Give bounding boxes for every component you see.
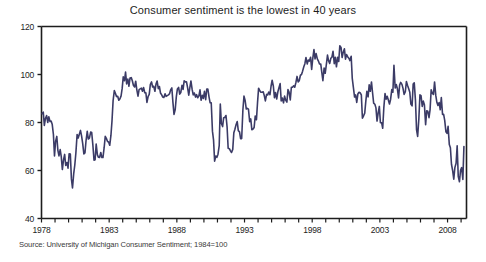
x-tick-label: 2008 xyxy=(428,225,468,235)
chart-plot-area xyxy=(0,0,486,262)
x-tick-label: 1978 xyxy=(22,225,62,235)
axis-ticks xyxy=(38,27,462,223)
y-tick-label: 40 xyxy=(8,214,34,224)
y-tick-label: 80 xyxy=(8,118,34,128)
x-tick-label: 1988 xyxy=(157,225,197,235)
sentiment-line-series xyxy=(42,46,464,188)
x-tick-label: 2003 xyxy=(360,225,400,235)
x-tick-label: 1983 xyxy=(89,225,129,235)
y-tick-label: 120 xyxy=(8,22,34,32)
y-tick-label: 60 xyxy=(8,166,34,176)
chart-figure: Consumer sentiment is the lowest in 40 y… xyxy=(0,0,486,262)
source-note: Source: University of Michigan Consumer … xyxy=(19,240,227,249)
x-tick-label: 1993 xyxy=(225,225,265,235)
y-tick-label: 100 xyxy=(8,70,34,80)
x-tick-label: 1998 xyxy=(292,225,332,235)
